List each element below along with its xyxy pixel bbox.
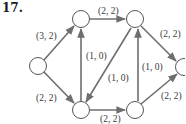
- node-d: [127, 102, 144, 119]
- label-b-t: (2, 2): [160, 29, 181, 40]
- node-a: [73, 11, 90, 28]
- edge-b-c: [86, 28, 131, 102]
- label-s-a: (3, 2): [36, 31, 57, 42]
- node-s: [30, 58, 47, 75]
- label-a-b: (2, 2): [98, 6, 119, 17]
- label-s-c: (2, 2): [36, 93, 57, 104]
- flow-network-diagram: (3, 2) (2, 2) (2, 2) (1, 0) (1, 0) (2, 2…: [0, 0, 185, 124]
- node-t: [176, 59, 186, 76]
- node-c: [73, 102, 90, 119]
- label-d-t: (2, 2): [161, 91, 182, 102]
- label-c-d: (2, 2): [100, 114, 121, 124]
- label-b-c: (1, 0): [108, 73, 129, 84]
- label-d-b: (1, 0): [142, 62, 163, 73]
- node-b: [127, 11, 144, 28]
- label-c-a: (1, 0): [86, 51, 107, 62]
